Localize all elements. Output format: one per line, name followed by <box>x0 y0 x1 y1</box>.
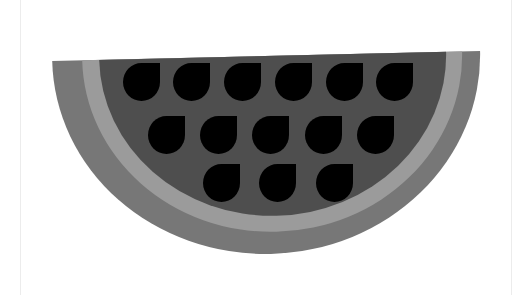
watermelon-seed <box>316 164 353 202</box>
watermelon-seed <box>259 164 296 202</box>
watermelon-seed <box>252 116 289 154</box>
watermelon-seed <box>173 63 210 101</box>
watermelon-illustration <box>0 0 518 295</box>
watermelon-seed <box>275 63 312 101</box>
watermelon-seed <box>200 116 237 154</box>
watermelon-seed <box>224 63 261 101</box>
watermelon-seed <box>326 63 363 101</box>
watermelon-seed <box>148 116 185 154</box>
watermelon-seed <box>305 116 342 154</box>
watermelon-seed <box>376 63 413 101</box>
watermelon-seed <box>357 116 394 154</box>
watermelon-seed <box>203 164 240 202</box>
watermelon-seed <box>123 63 160 101</box>
